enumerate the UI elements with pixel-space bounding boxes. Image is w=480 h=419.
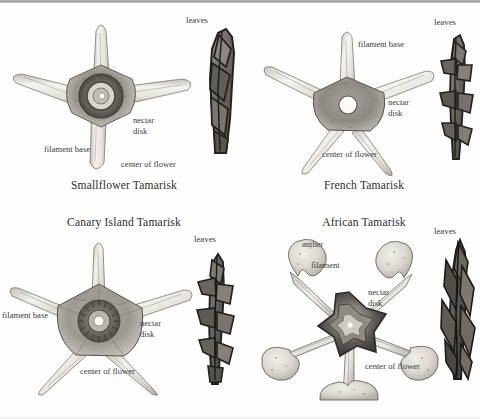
panel-african-tamarisk: leaves anther filament nectar disk cente… <box>248 208 480 417</box>
label-leaves-french: leaves <box>434 17 456 28</box>
panel-french-tamarisk: leaves filament base nectar disk center … <box>248 3 480 208</box>
species-title-french: French Tamarisk <box>248 179 480 191</box>
panel-canary-island-tamarisk: leaves filament base nectar disk center … <box>0 208 248 417</box>
label-center-of-flower-french: center of flower <box>322 149 377 160</box>
leaf-sprig-african <box>434 236 480 381</box>
label-nectar-disk-african: nectar disk <box>368 287 389 308</box>
label-center-of-flower-canary: center of flower <box>80 366 135 377</box>
panel-smallflower-tamarisk: leaves nectar disk filament base center … <box>0 3 248 208</box>
label-filament-base-smallflower: filament base <box>44 144 90 155</box>
flower-diagram-african <box>254 232 444 402</box>
species-title-smallflower: Smallflower Tamarisk <box>0 179 248 191</box>
illustration-plate: leaves nectar disk filament base center … <box>0 3 480 417</box>
flower-diagram-smallflower <box>6 17 196 177</box>
label-nectar-disk-french: nectar disk <box>388 97 409 118</box>
label-filament-african: filament <box>311 260 340 271</box>
label-leaves-canary: leaves <box>194 234 216 245</box>
label-anther-african: anther <box>302 239 323 250</box>
label-filament-base-french: filament base <box>358 39 404 50</box>
leaf-sprig-smallflower <box>192 27 244 159</box>
label-nectar-disk-smallflower: nectar disk <box>133 115 154 136</box>
label-center-of-flower-smallflower: center of flower <box>121 159 176 170</box>
species-title-canary: Canary Island Tamarisk <box>0 216 248 228</box>
label-center-of-flower-african: center of flower <box>365 361 420 372</box>
label-filament-base-canary: filament base <box>2 310 48 321</box>
label-nectar-disk-canary: nectar disk <box>140 318 161 339</box>
species-title-african: African Tamarisk <box>248 216 480 228</box>
label-leaves-smallflower: leaves <box>186 15 208 26</box>
leaf-sprig-canary <box>190 246 240 386</box>
leaf-sprig-french <box>432 31 480 161</box>
